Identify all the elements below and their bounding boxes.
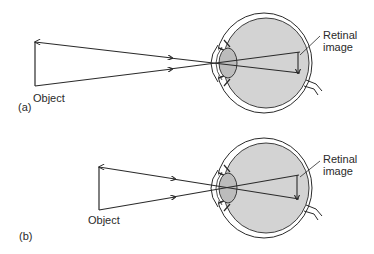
panel-a bbox=[35, 13, 322, 113]
ray-top-a bbox=[35, 42, 172, 58]
panel-label-b: (b) bbox=[19, 230, 32, 242]
retinal-image-label-b: Retinal image bbox=[323, 153, 357, 177]
eye-optics-diagram bbox=[0, 0, 374, 254]
ray-top-b bbox=[99, 167, 175, 179]
panel-b bbox=[99, 138, 322, 238]
object-label-a: Object bbox=[33, 92, 65, 104]
object-label-b: Object bbox=[88, 214, 120, 226]
retinal-image-label-a: Retinal image bbox=[323, 29, 357, 53]
ray-bottom-b bbox=[99, 197, 175, 210]
ray-bottom-a bbox=[35, 69, 172, 86]
eyeball-a bbox=[211, 13, 322, 113]
panel-label-a: (a) bbox=[18, 101, 31, 113]
